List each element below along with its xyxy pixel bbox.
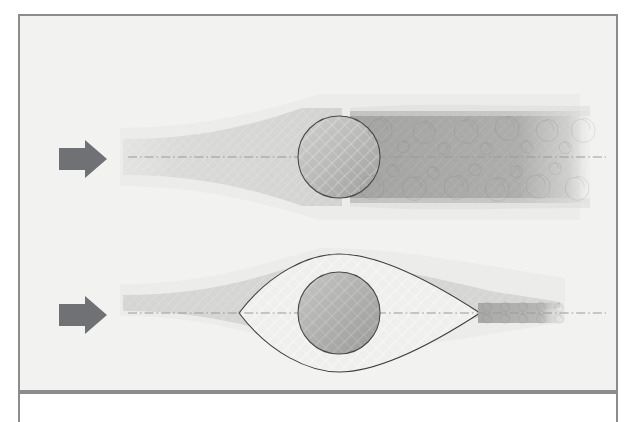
top-wake-upper-shear bbox=[350, 105, 590, 116]
top-sphere bbox=[298, 116, 380, 198]
bottom-inlet-arrow bbox=[59, 296, 107, 334]
top-wake-lower-shear bbox=[350, 198, 590, 209]
figure-page: Flow past a bluff sphere versus a stream… bbox=[0, 0, 640, 422]
bottom-sphere bbox=[298, 272, 380, 354]
flow-diagram bbox=[20, 16, 620, 394]
bottom-panel-group bbox=[59, 248, 606, 372]
figure-frame: Flow past a bluff sphere versus a stream… bbox=[18, 14, 618, 392]
caption-frame bbox=[18, 392, 618, 422]
top-panel-group bbox=[59, 94, 606, 220]
top-inlet-arrow bbox=[59, 140, 107, 178]
